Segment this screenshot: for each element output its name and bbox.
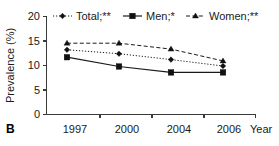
triangle-marker [116,40,122,45]
legend-item-total[interactable]: Total;** [53,10,112,22]
series-total-line [67,50,223,66]
diamond-marker [60,13,66,19]
square-marker [220,70,226,76]
y-tick-label-20: 20 [28,10,40,22]
figure-panel-b: B Prevalence (%) 0 5 10 15 20 1997 2000 [0,0,279,146]
y-tick-label-5: 5 [34,84,40,96]
triangle-marker [168,46,174,51]
square-marker [116,64,122,70]
square-marker [130,13,136,19]
legend-item-women[interactable]: Women;** [186,10,259,22]
square-marker [168,70,174,76]
diamond-marker [64,47,70,53]
x-axis-title: Year [250,123,273,135]
series-men [64,54,226,75]
y-tick-label-10: 10 [28,59,40,71]
y-axis-title: Prevalence (%) [4,28,16,103]
chart-legend: Total;** Men;* Women;** [53,10,259,22]
panel-label: B [6,122,15,136]
prevalence-line-chart: B Prevalence (%) 0 5 10 15 20 1997 2000 [0,0,279,146]
diamond-marker [220,63,226,69]
legend-item-men[interactable]: Men;* [123,10,175,22]
square-marker [64,54,70,60]
y-axis-ticks: 0 5 10 15 20 [28,10,47,120]
legend-label-women: Women;** [209,10,259,22]
diamond-marker [116,51,122,57]
x-tick-label-2000: 2000 [115,123,139,135]
x-tick-label-2004: 2004 [167,123,191,135]
diamond-marker [168,57,174,63]
x-axis-ticks: 1997 2000 2004 2006 Year [63,115,273,136]
x-tick-label-1997: 1997 [63,123,87,135]
legend-label-total: Total;** [76,10,112,22]
legend-label-men: Men;* [146,10,175,22]
x-tick-label-2006: 2006 [217,123,241,135]
y-tick-label-15: 15 [28,35,40,47]
series-men-line [67,57,223,72]
series-women-line [67,43,223,61]
series-total [64,47,226,69]
y-tick-label-0: 0 [34,108,40,120]
